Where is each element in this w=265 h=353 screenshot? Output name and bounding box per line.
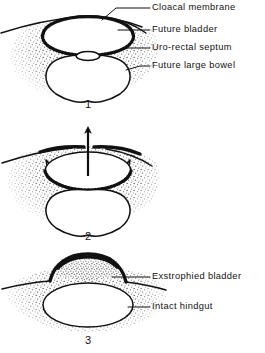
label-uro-rectal-septum: Uro-rectal septum [152,42,232,52]
label-future-large-bowel: Future large bowel [152,60,235,70]
label-cloacal-membrane: Cloacal membrane [152,2,236,12]
label-exstrophied-bladder: Exstrophied bladder [152,271,241,281]
panel-number-1: 1 [85,98,91,110]
panel-1: Cloacal membrane Future bladder Uro-rect… [1,2,236,110]
panel-number-3: 3 [85,334,91,346]
panel-2: 2 [2,131,159,242]
label-future-bladder: Future bladder [152,24,217,34]
future-large-bowel [46,55,130,102]
panel-3: Exstrophied bladder Intact hindgut 3 [2,252,241,346]
panel-number-2: 2 [85,230,91,242]
uro-rectal-septum [76,51,100,60]
intact-hindgut [43,283,133,327]
label-intact-hindgut: Intact hindgut [152,301,213,311]
exstrophy-development-figure: Cloacal membrane Future bladder Uro-rect… [0,0,265,353]
